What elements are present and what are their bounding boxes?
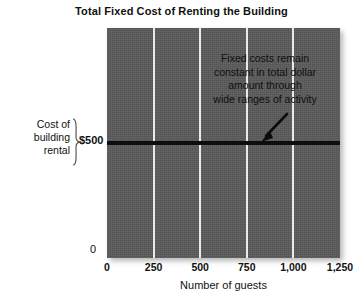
annotation-line-4: wide ranges of activity (195, 93, 335, 107)
y-axis-value-500: $500 (79, 134, 103, 146)
annotation-line-3: amount through (195, 79, 335, 93)
fixed-cost-line (107, 141, 340, 145)
annotation-arrow-icon (256, 111, 290, 145)
annotation-line-2: constant in total dollar (195, 66, 335, 80)
y-axis-group-label: Cost ofbuildingrental (8, 118, 70, 157)
y-axis-group-label-line-2: building (8, 131, 70, 144)
x-tick-0: 0 (104, 261, 110, 273)
x-tick-500: 500 (191, 261, 209, 273)
y-axis-value-zero: 0 (90, 243, 96, 255)
x-tick-250: 250 (145, 261, 163, 273)
chart-title: Total Fixed Cost of Renting the Building (0, 5, 363, 17)
plot-area: Fixed costs remainconstant in total doll… (107, 28, 340, 258)
y-axis-group-label-line-3: rental (8, 144, 70, 157)
y-axis-group-label-line-1: Cost of (8, 118, 70, 131)
annotation-line-1: Fixed costs remain (195, 52, 335, 66)
fixed-cost-chart: Total Fixed Cost of Renting the Building… (0, 0, 363, 307)
x-tick-1250: 1,250 (327, 261, 353, 273)
x-tick-1000: 1,000 (280, 261, 306, 273)
annotation-text: Fixed costs remainconstant in total doll… (195, 52, 335, 106)
x-tick-750: 750 (238, 261, 256, 273)
x-axis-label: Number of guests (107, 279, 340, 291)
